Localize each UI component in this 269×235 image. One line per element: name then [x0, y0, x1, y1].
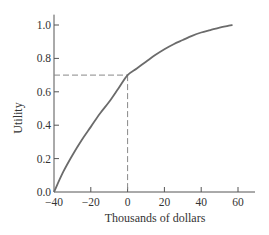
- x-axis-label: Thousands of dollars: [105, 211, 206, 225]
- y-tick-label: 0.2: [37, 153, 52, 165]
- x-tick-label: −20: [82, 196, 100, 208]
- x-tick-label: 60: [232, 196, 244, 208]
- y-tick-label: 0.0: [37, 186, 52, 198]
- y-tick-label: 0.4: [37, 119, 52, 131]
- utility-curve: [54, 25, 232, 192]
- y-tick-label: 0.8: [37, 52, 52, 64]
- x-tick-label: 20: [159, 196, 171, 208]
- axes: [54, 15, 255, 192]
- x-tick-label: 40: [195, 196, 207, 208]
- y-tick-label: 1.0: [37, 19, 52, 31]
- x-tick-label: 0: [125, 196, 131, 208]
- y-axis-label: Utility: [11, 102, 25, 133]
- y-tick-label: 0.6: [37, 86, 52, 98]
- utility-chart: −40−2002040600.00.20.40.60.81.0 Utility …: [0, 0, 269, 235]
